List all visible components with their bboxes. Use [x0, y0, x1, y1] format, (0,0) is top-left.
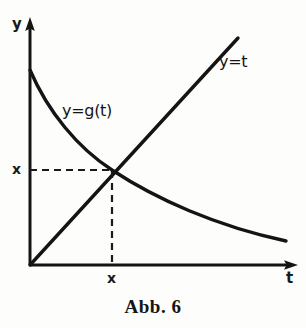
curve-linear-y-equals-t: [30, 38, 238, 265]
y-axis-tick-label-x: x: [12, 162, 21, 176]
plot-canvas: [0, 0, 306, 328]
curve-label-decay: y=g(t): [62, 103, 112, 119]
curve-label-linear: y=t: [219, 54, 247, 70]
t-axis: [30, 260, 298, 270]
curve-decay-y-equals-g-of-t: [30, 70, 286, 241]
figure-caption: Abb. 6: [0, 296, 306, 318]
y-axis-label: y: [12, 17, 22, 32]
figure-abb-6: y t x x y=t y=g(t) Abb. 6: [0, 0, 306, 328]
t-axis-label: t: [286, 271, 293, 286]
y-axis: [25, 17, 35, 265]
t-axis-tick-label-x: x: [107, 271, 116, 285]
